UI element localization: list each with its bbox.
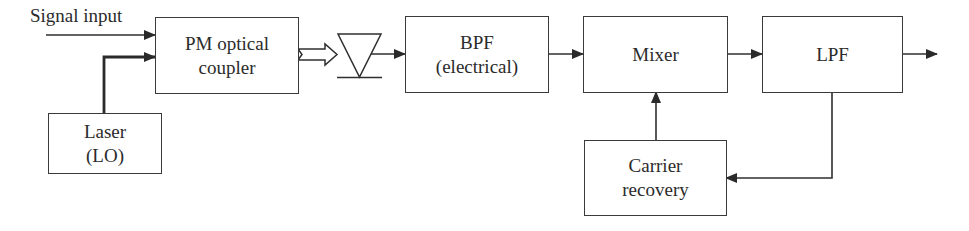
pm-optical-coupler-block: PM optical coupler [155,17,299,94]
bpf-electrical-block: BPF (electrical) [405,16,549,93]
lpf-to-carrier-recovery-arrow [726,92,832,178]
mixer-label: Mixer [632,43,678,67]
coupler-label-line2: coupler [199,56,256,80]
laser-label-line2: (LO) [86,144,124,168]
optical-output-arrow [298,44,337,65]
laser-to-coupler-arrow [104,57,155,113]
lpf-label: LPF [816,43,849,67]
laser-lo-block: Laser (LO) [48,113,162,174]
carrier-recovery-label-line1: Carrier [629,154,683,178]
carrier-recovery-block: Carrier recovery [584,140,727,216]
carrier-recovery-label-line2: recovery [622,178,688,202]
photodiode-icon [337,34,382,78]
bpf-label-line2: (electrical) [436,55,518,79]
laser-label-line1: Laser [84,120,126,144]
coupler-label-line1: PM optical [185,32,269,56]
mixer-block: Mixer [583,16,728,93]
signal-input-label: Signal input [30,5,122,27]
lpf-block: LPF [762,16,903,93]
bpf-label-line1: BPF [460,31,494,55]
